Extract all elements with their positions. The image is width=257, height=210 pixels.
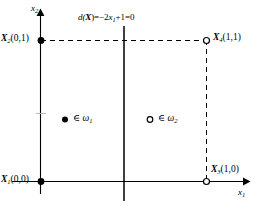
legend-label-omega2: ∈ ω2 <box>158 114 177 124</box>
point-label-x4: X4(1,1) <box>213 33 241 43</box>
legend-label-omega1: ∈ ω1 <box>73 114 92 124</box>
x-axis-label: x1 <box>238 188 245 197</box>
point-marker-x3 <box>204 179 210 185</box>
point-marker-x1 <box>38 178 45 185</box>
x1-axis-arrowhead <box>243 178 251 186</box>
point-marker-x2 <box>38 37 45 44</box>
legend-marker-omega1 <box>62 117 68 123</box>
point-label-x1: X1(0,0) <box>1 175 29 185</box>
x2-axis <box>37 9 45 195</box>
x1-axis <box>12 178 251 186</box>
point-marker-x4 <box>204 38 210 44</box>
point-label-x3: X3(1,0) <box>211 165 239 175</box>
decision-boundary-figure: x2 x1 d(X)=−2x1+1=0 X2(0,1) X1(0,0) X4(1… <box>0 0 257 210</box>
point-label-x2: X2(0,1) <box>1 34 29 44</box>
y-axis-label: x2 <box>31 4 38 13</box>
decision-function-label: d(X)=−2x1+1=0 <box>78 13 134 22</box>
legend-marker-omega2 <box>147 117 153 123</box>
